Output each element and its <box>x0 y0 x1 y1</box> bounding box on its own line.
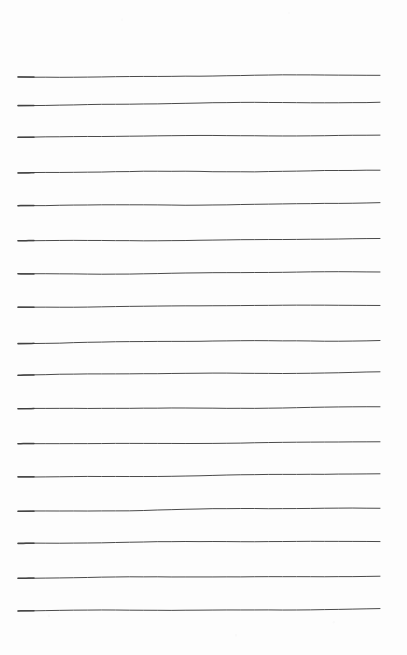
ruled-line <box>18 372 380 376</box>
ruled-line <box>18 170 380 173</box>
ruled-line <box>18 305 380 307</box>
ruled-line <box>18 609 380 611</box>
ruled-line <box>18 508 380 511</box>
ruled-lines-layer <box>0 0 407 655</box>
ruled-line <box>18 474 380 477</box>
ruled-line <box>18 203 380 206</box>
ruled-line <box>18 407 380 409</box>
ruled-paper-sheet <box>0 0 407 655</box>
ruled-line <box>18 238 380 240</box>
ruled-line <box>18 442 380 444</box>
ruled-line <box>18 541 380 543</box>
ruled-line <box>18 135 380 137</box>
ruled-line <box>18 272 380 275</box>
ruled-line <box>18 75 380 77</box>
ruled-line <box>18 102 380 106</box>
ruled-line <box>18 341 380 344</box>
ruled-line <box>18 576 380 578</box>
